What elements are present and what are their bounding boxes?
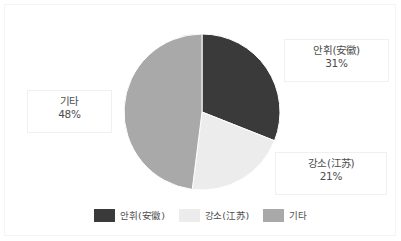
legend-item-label: 안휘(安徽) — [120, 208, 164, 222]
pie-slice — [124, 34, 202, 189]
legend-item[interactable]: 기타 — [263, 208, 307, 222]
callout-gita-value: 48% — [34, 108, 105, 121]
callout-gita: 기타 48% — [27, 90, 112, 133]
callout-anhui: 안휘(安徽) 31% — [284, 39, 389, 82]
callout-anhui-value: 31% — [291, 57, 382, 70]
callout-gita-label: 기타 — [34, 95, 105, 108]
pie-slices — [124, 34, 280, 190]
pie-chart-figure: 안휘(安徽) 31% 기타 48% 강소(江苏) 21% 안휘(安徽)강소(江苏… — [0, 0, 401, 241]
plot-area: 안휘(安徽) 31% 기타 48% 강소(江苏) 21% 안휘(安徽)강소(江苏… — [0, 0, 401, 241]
legend-swatch-icon — [179, 209, 200, 222]
callout-jiangsu: 강소(江苏) 21% — [275, 152, 387, 195]
legend-item[interactable]: 강소(江苏) — [179, 208, 249, 222]
legend-swatch-icon — [94, 209, 115, 222]
callout-anhui-label: 안휘(安徽) — [291, 44, 382, 57]
callout-jiangsu-label: 강소(江苏) — [282, 157, 380, 170]
legend-swatch-icon — [263, 209, 284, 222]
callout-jiangsu-value: 21% — [282, 170, 380, 183]
legend-item[interactable]: 안휘(安徽) — [94, 208, 164, 222]
legend-item-label: 강소(江苏) — [205, 208, 249, 222]
chart-legend: 안휘(安徽)강소(江苏)기타 — [0, 205, 401, 225]
legend-item-label: 기타 — [289, 208, 307, 222]
